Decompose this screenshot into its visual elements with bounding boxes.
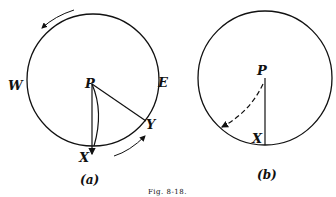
label-P-a: P bbox=[84, 76, 96, 91]
panel-label-b: (b) bbox=[257, 168, 277, 182]
rotation-arrow-bottom bbox=[114, 136, 145, 156]
label-X-a: X bbox=[78, 150, 90, 165]
panel-a: P W E Y X (a) bbox=[8, 10, 169, 187]
curve-P-X bbox=[92, 84, 99, 146]
panel-label-a: (a) bbox=[80, 173, 99, 187]
figure-caption: Fig. 8-18. bbox=[148, 188, 187, 196]
label-X-b: X bbox=[251, 131, 263, 146]
dashed-arc bbox=[222, 84, 263, 127]
line-P-Y bbox=[92, 84, 146, 121]
figure-8-18: P W E Y X (a) P X (b) Fig. 8-18. bbox=[0, 0, 336, 197]
label-Y: Y bbox=[146, 117, 157, 132]
label-P-b: P bbox=[256, 63, 268, 78]
label-W: W bbox=[8, 78, 24, 93]
label-E: E bbox=[157, 75, 169, 90]
panel-b: P X (b) bbox=[198, 11, 332, 182]
